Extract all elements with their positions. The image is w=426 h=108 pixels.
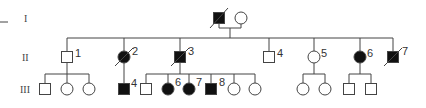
- label-II-3: 3: [188, 45, 194, 57]
- individual-II-6-affected-female: [354, 51, 366, 63]
- label-III-4: 4: [131, 77, 137, 89]
- individual-II-5-female: [308, 51, 320, 63]
- individual-III-male: [344, 84, 355, 95]
- label-III-7: 7: [196, 76, 202, 88]
- individual-III-female: [228, 83, 240, 95]
- individual-III-female: [249, 83, 261, 95]
- label-III-8: 8: [219, 76, 225, 88]
- individual-III-female: [83, 83, 95, 95]
- label-II-4: 4: [277, 47, 283, 59]
- individual-III-7-affected-female: [183, 83, 195, 95]
- label-II-2: 2: [132, 45, 138, 57]
- label-III-6: 6: [175, 76, 181, 88]
- label-II-6: 6: [367, 47, 373, 59]
- pedigree-chart: I II III 1 2 3 4 5 6: [0, 0, 426, 108]
- label-II-5: 5: [321, 47, 327, 59]
- individual-III-female: [319, 83, 331, 95]
- individual-III-8-affected-male: [206, 84, 217, 95]
- label-II-1: 1: [75, 47, 81, 59]
- individual-III-male: [366, 84, 377, 95]
- generation-label-III: III: [20, 84, 30, 95]
- individual-III-female: [297, 83, 309, 95]
- individual-I-2-female: [235, 12, 247, 24]
- individual-III-female: [61, 83, 73, 95]
- generation-label-I: I: [24, 13, 27, 24]
- connector-lines: [0, 22, 393, 83]
- individual-III-6-affected-female: [162, 83, 174, 95]
- label-II-7: 7: [402, 45, 408, 57]
- individual-III-4-affected-male: [119, 84, 130, 95]
- generation-label-II: II: [22, 52, 29, 63]
- individual-III-male: [141, 84, 152, 95]
- individual-II-1-male: [62, 52, 73, 63]
- individual-II-4-male: [264, 52, 275, 63]
- individual-III-male: [40, 84, 51, 95]
